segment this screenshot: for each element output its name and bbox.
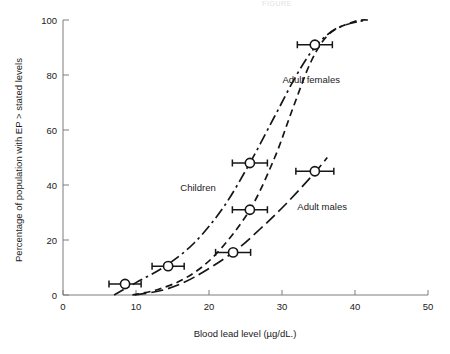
data-point-adult-females xyxy=(245,205,254,214)
x-axis-title: Blood lead level (µg/dL.) xyxy=(194,328,297,339)
data-point-adult-males xyxy=(228,248,237,257)
x-tick-label: 40 xyxy=(350,301,361,312)
x-tick-label: 50 xyxy=(423,301,434,312)
y-axis-title: Percentage of population with EP > state… xyxy=(13,58,24,262)
data-point-children xyxy=(164,262,173,271)
x-tick-label: 10 xyxy=(131,301,142,312)
x-tick-label: 30 xyxy=(277,301,288,312)
x-tick-label: 20 xyxy=(204,301,215,312)
annotation-adult-males: Adult males xyxy=(297,201,347,212)
y-tick-label: 80 xyxy=(46,70,57,81)
y-tick-label: 60 xyxy=(46,125,57,136)
y-tick-label: 20 xyxy=(46,235,57,246)
series-curves xyxy=(114,20,370,295)
y-tick-label: 40 xyxy=(46,180,57,191)
data-point-children xyxy=(245,158,254,167)
curve-adult-males xyxy=(135,158,328,296)
y-axis-ticks: 020406080100 xyxy=(41,15,69,301)
chart-svg: 01020304050 020406080100 ChildrenAdult f… xyxy=(0,0,450,354)
y-tick-label: 0 xyxy=(52,290,57,301)
series-annotations: ChildrenAdult femalesAdult males xyxy=(180,74,347,212)
axes xyxy=(63,20,428,295)
chart-figure: 01020304050 020406080100 ChildrenAdult f… xyxy=(0,0,450,354)
data-point-children xyxy=(120,279,129,288)
data-point-adult-males xyxy=(310,167,319,176)
annotation-adult-females: Adult females xyxy=(282,74,340,85)
y-tick-label: 100 xyxy=(41,15,57,26)
x-tick-label: 0 xyxy=(60,301,65,312)
annotation-children: Children xyxy=(180,182,215,193)
data-point-children xyxy=(310,40,319,49)
curve-children xyxy=(114,20,366,295)
